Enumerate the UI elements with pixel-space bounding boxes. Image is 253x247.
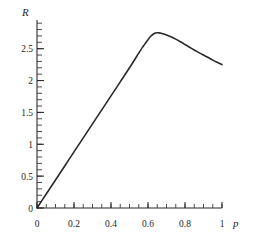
x-axis-label: p — [232, 217, 239, 229]
line-chart: 00.20.40.60.81 00.511.522.5 R p — [0, 0, 253, 247]
y-tick-label: 2.5 — [21, 44, 33, 54]
y-tick-label: 1.5 — [21, 108, 33, 118]
y-tick-label: 2 — [28, 76, 33, 86]
x-axis-minor-ticks — [37, 204, 222, 208]
axes-group — [37, 20, 222, 208]
y-tick-label: 1 — [28, 140, 33, 150]
x-tick-label: 0.8 — [179, 219, 191, 229]
x-tick-label: 0.6 — [142, 219, 154, 229]
y-axis-major-ticks — [37, 49, 44, 208]
x-tick-label: 0.2 — [68, 219, 80, 229]
y-axis-minor-ticks — [37, 23, 42, 208]
y-tick-label: 0.5 — [21, 172, 33, 182]
data-series-line — [37, 33, 222, 208]
y-tick-label: 0 — [28, 204, 33, 214]
y-axis-tick-labels: 00.511.522.5 — [21, 44, 33, 213]
x-tick-label: 0.4 — [105, 219, 117, 229]
x-axis-tick-labels: 00.20.40.60.81 — [35, 219, 225, 229]
y-axis-label: R — [21, 6, 29, 18]
chart-figure: 00.20.40.60.81 00.511.522.5 R p — [0, 0, 253, 247]
x-tick-label: 1 — [220, 219, 225, 229]
x-tick-label: 0 — [35, 219, 40, 229]
